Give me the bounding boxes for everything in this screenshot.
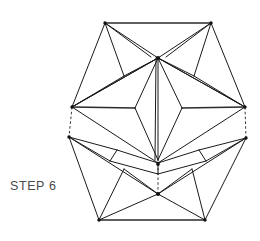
fan-bottomright-bottomhub (158, 194, 205, 220)
kite-lower-right (158, 108, 182, 160)
diagonal-leftupper-midhub (72, 107, 158, 163)
crease-topleft-leftupper-fold (105, 23, 124, 76)
vertex-right-lower (244, 136, 247, 139)
vertex-bottom-right (203, 218, 206, 221)
dashed-hinge-right (245, 107, 246, 138)
chevron-outer-left-upper (69, 137, 117, 150)
vertex-top-left (103, 21, 106, 24)
crease-topleft-hub (105, 23, 158, 58)
kite-upper-right (158, 58, 182, 108)
diagonal-hub-leftupper (72, 58, 158, 107)
vertex-left-lower (67, 135, 70, 138)
chevron-tip-right (199, 150, 206, 161)
crease-horizontal-left (72, 107, 135, 108)
crease-horizontal-right (182, 107, 245, 108)
fan-leftlower-bottomhub (69, 137, 158, 194)
vertex-bottom-left (97, 218, 100, 221)
crease-topright-hub (158, 23, 211, 58)
crease-topleft-hub-inner (105, 23, 151, 57)
edge-upper-right (211, 23, 245, 107)
vertex-bottom-hub (156, 192, 160, 196)
vertex-center-hub (156, 56, 160, 60)
fan-rightlower-bottomhub (158, 138, 246, 194)
chevron-outer-right-upper (199, 138, 246, 150)
vertex-left-upper (70, 105, 73, 108)
chevron-inner-right-upper (158, 150, 199, 163)
crease-topright-hub-inner (166, 23, 211, 57)
vertex-top-right (209, 21, 212, 24)
edge-upper-left (72, 23, 105, 107)
fan-bottomleft-chevronleft (99, 169, 124, 220)
kite-center-spine-left (155, 58, 156, 160)
vertex-mid-hub (156, 162, 160, 166)
fan-bottomright-chevronright (192, 169, 205, 220)
central-kite-group (135, 58, 182, 161)
kite-upper-left (135, 58, 158, 108)
chevron-inner-left-upper (117, 150, 158, 163)
vertex-right-upper (243, 105, 246, 108)
origami-diagram (0, 0, 260, 241)
crease-topright-rightupper-fold (194, 23, 211, 76)
diagonal-hub-rightupper (158, 58, 245, 107)
figure-root: STEP 6 (0, 0, 260, 241)
chevron-tip-left (110, 150, 117, 161)
edge-lower-left (69, 137, 99, 220)
fan-bottomleft-bottomhub (99, 194, 158, 220)
dashed-hinge-left (69, 107, 72, 137)
kite-lower-left (135, 108, 158, 160)
step-caption: STEP 6 (10, 179, 56, 193)
